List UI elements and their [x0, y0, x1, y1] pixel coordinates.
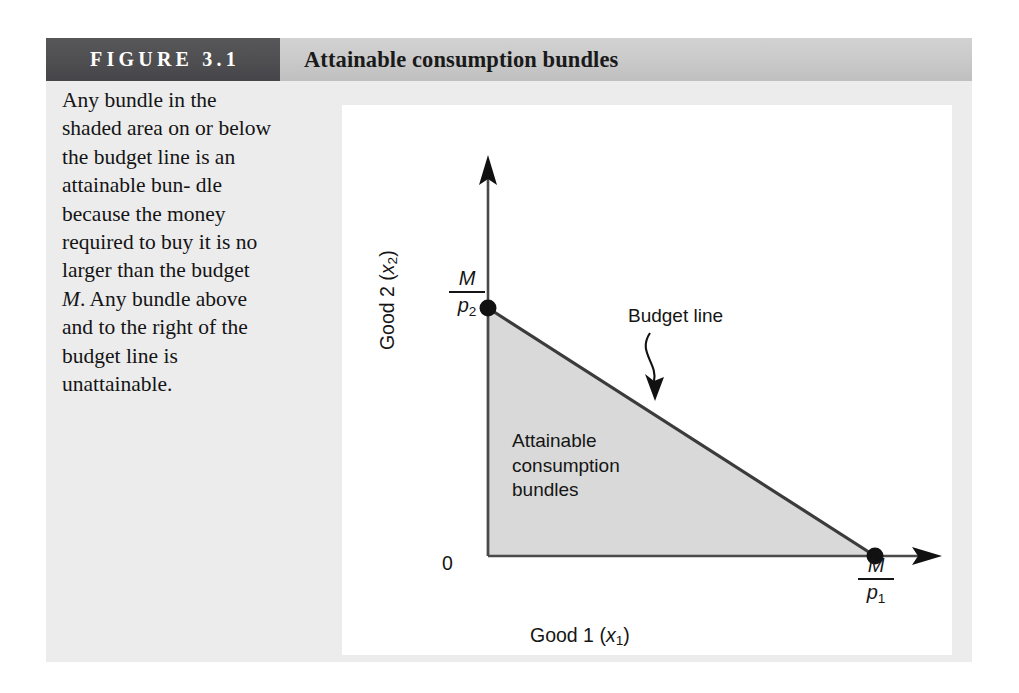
x-axis-label: Good 1 (x1) [530, 624, 630, 648]
y-axis-variable: x [376, 264, 398, 274]
plot-panel: Good 2 (x2) Good 1 (x1) 0 Budget line At… [342, 105, 952, 655]
attainable-region-label: Attainable consumption bundles [512, 429, 620, 503]
figure-header-bar: FIGURE 3.1 Attainable consumption bundle… [46, 38, 972, 81]
x-intercept-denominator: p1 [858, 581, 894, 606]
caption-line: Any bundle in the [62, 88, 217, 112]
figure-title: Attainable consumption bundles [304, 38, 618, 81]
caption-line: and to the right of [62, 315, 216, 339]
x-intercept-denominator-symbol: p [867, 581, 878, 603]
x-intercept-fraction-bar [858, 578, 894, 580]
budget-line-annotation: Budget line [628, 305, 723, 327]
x-axis-subscript: 1 [616, 633, 624, 648]
x-intercept-label: M p1 [858, 555, 894, 606]
figure-number-block: FIGURE 3.1 [46, 38, 280, 81]
y-intercept-fraction-bar [449, 291, 485, 293]
figure-card: FIGURE 3.1 Attainable consumption bundle… [46, 38, 972, 662]
y-intercept-label: M p2 [449, 268, 485, 319]
origin-label: 0 [442, 552, 453, 575]
y-intercept-denominator-symbol: p [458, 294, 469, 316]
caption-line: shaded area on or [62, 116, 213, 140]
y-intercept-denominator: p2 [449, 294, 485, 319]
caption-symbol-m: M [62, 287, 80, 311]
y-axis-label: Good 2 (x2) [376, 210, 400, 390]
budget-line-leader-arrow [646, 333, 655, 381]
x-axis-variable: x [606, 624, 616, 646]
caption-line: unattainable. [62, 372, 172, 396]
attainable-region-label-line: Attainable [512, 429, 620, 454]
y-intercept-denominator-subscript: 2 [469, 303, 477, 318]
y-intercept-numerator: M [449, 268, 485, 291]
caption-line: Any bundle above [90, 287, 248, 311]
x-intercept-numerator: M [858, 555, 894, 578]
figure-caption: Any bundle in the shaded area on or belo… [62, 86, 274, 398]
y-axis-subscript: 2 [385, 257, 400, 265]
attainable-region-label-line: bundles [512, 478, 620, 503]
figure-number-label: FIGURE 3.1 [86, 48, 240, 71]
attainable-region-label-line: consumption [512, 454, 620, 479]
x-intercept-denominator-subscript: 1 [878, 590, 886, 605]
